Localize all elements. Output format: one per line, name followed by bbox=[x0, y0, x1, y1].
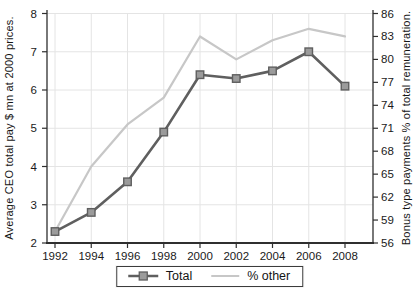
x-tick-label: 2008 bbox=[332, 250, 358, 262]
right-tick-label: 68 bbox=[381, 145, 394, 157]
legend-entry-total: Total bbox=[127, 269, 192, 283]
left-tick-label: 3 bbox=[31, 199, 37, 211]
data-point-marker bbox=[269, 67, 277, 75]
other-series-swatch bbox=[210, 270, 240, 282]
data-point-marker bbox=[233, 75, 241, 83]
line-chart-plot: 2345678565962656871747780838619921994199… bbox=[0, 0, 419, 294]
x-tick-label: 2002 bbox=[223, 250, 249, 262]
data-point-marker bbox=[341, 82, 349, 90]
x-tick-label: 2006 bbox=[296, 250, 322, 262]
right-tick-label: 71 bbox=[381, 122, 394, 134]
right-axis-title: Bonus type payments % of total remunerat… bbox=[400, 11, 412, 245]
legend-label-total: Total bbox=[166, 269, 192, 283]
x-tick-label: 1998 bbox=[151, 250, 177, 262]
x-tick-label: 1992 bbox=[42, 250, 68, 262]
left-axis-title: Average CEO total pay $ mn at 2000 price… bbox=[3, 16, 15, 239]
other-swatch-graphic bbox=[210, 270, 240, 282]
total-series-swatch bbox=[127, 270, 159, 282]
legend: Total % other bbox=[116, 266, 304, 287]
right-tick-label: 59 bbox=[381, 214, 394, 226]
legend-entry-other: % other bbox=[210, 269, 290, 283]
right-tick-label: 83 bbox=[381, 30, 394, 42]
right-tick-label: 62 bbox=[381, 191, 394, 203]
total-swatch-marker bbox=[139, 272, 147, 280]
right-tick-label: 77 bbox=[381, 76, 394, 88]
data-point-marker bbox=[196, 71, 204, 79]
right-tick-label: 86 bbox=[381, 8, 394, 20]
x-tick-label: 1994 bbox=[78, 250, 104, 262]
data-point-marker bbox=[124, 178, 132, 186]
left-tick-label: 2 bbox=[31, 237, 37, 249]
data-point-marker bbox=[160, 128, 168, 136]
right-tick-label: 65 bbox=[381, 168, 394, 180]
x-tick-label: 1996 bbox=[115, 250, 141, 262]
right-tick-label: 80 bbox=[381, 53, 394, 65]
right-tick-label: 56 bbox=[381, 237, 394, 249]
total-swatch-graphic bbox=[127, 270, 159, 282]
data-point-marker bbox=[51, 228, 59, 236]
left-tick-label: 4 bbox=[31, 161, 38, 173]
left-tick-label: 7 bbox=[31, 46, 37, 58]
legend-label-other: % other bbox=[247, 269, 290, 283]
left-tick-label: 8 bbox=[31, 8, 37, 20]
right-tick-label: 74 bbox=[381, 99, 394, 111]
data-point-marker bbox=[88, 209, 96, 217]
chart-figure: 2345678565962656871747780838619921994199… bbox=[0, 0, 419, 294]
x-tick-label: 2004 bbox=[260, 250, 286, 262]
data-point-marker bbox=[305, 48, 313, 56]
x-tick-label: 2000 bbox=[187, 250, 213, 262]
left-tick-label: 5 bbox=[31, 122, 37, 134]
left-tick-label: 6 bbox=[31, 84, 37, 96]
